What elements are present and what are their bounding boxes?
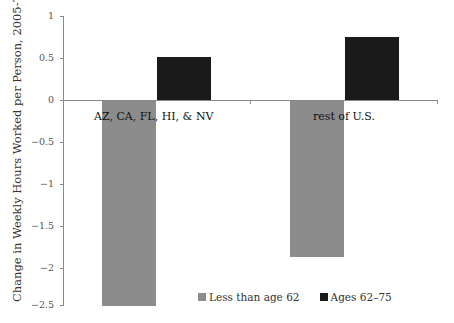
bar-ages-62-75-group-1 [157, 57, 211, 100]
y-tick [60, 226, 64, 227]
y-tick-label: −2.5 [24, 299, 54, 310]
legend-swatch [320, 293, 328, 301]
y-tick-label: −2 [24, 262, 54, 273]
y-tick [60, 16, 64, 17]
y-tick [60, 268, 64, 269]
bar-ages-62-75-group-2 [345, 37, 399, 100]
x-tick [250, 100, 251, 104]
y-tick-label: 1 [24, 10, 54, 21]
category-label: AZ, CA, FL, HI, & NV [94, 110, 213, 123]
y-tick [60, 100, 64, 101]
legend: Less than age 62 Ages 62–75 [198, 291, 406, 303]
y-tick-label: 0 [24, 94, 54, 105]
y-tick [60, 305, 64, 306]
legend-label: Ages 62–75 [331, 291, 392, 303]
y-tick [60, 184, 64, 185]
y-tick [60, 58, 64, 59]
bar-less-than-62-group-2 [290, 101, 344, 257]
legend-item: Less than age 62 [198, 291, 300, 303]
y-axis-label: Change in Weekly Hours Worked per Person… [10, 12, 24, 302]
x-tick [437, 100, 438, 104]
y-axis-line [63, 16, 64, 306]
bar-less-than-62-group-1 [102, 101, 156, 306]
legend-swatch [198, 293, 206, 301]
y-tick-label: −1.5 [24, 220, 54, 231]
y-tick-label: −0.5 [24, 136, 54, 147]
category-label: rest of U.S. [313, 110, 375, 123]
legend-label: Less than age 62 [209, 291, 300, 303]
y-tick [60, 142, 64, 143]
legend-item: Ages 62–75 [320, 291, 392, 303]
y-tick-label: 0.5 [24, 52, 54, 63]
y-tick-label: −1 [24, 178, 54, 189]
